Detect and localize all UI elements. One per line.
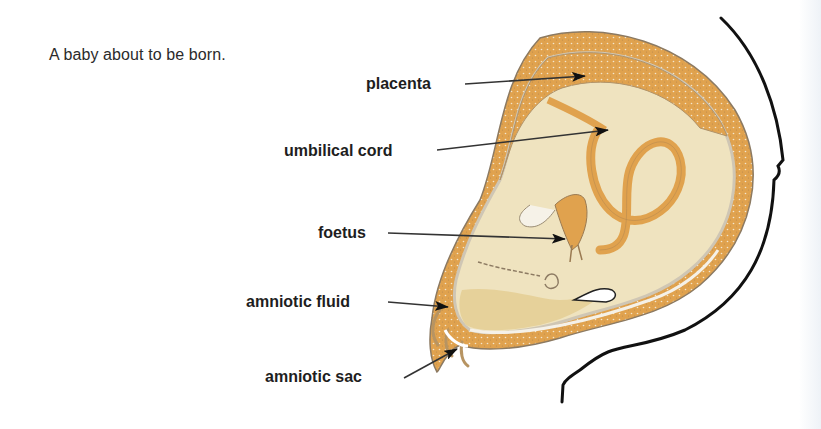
label-foetus: foetus xyxy=(318,224,366,242)
label-umbilical-cord: umbilical cord xyxy=(284,142,392,160)
label-amniotic-fluid: amniotic fluid xyxy=(246,293,350,311)
label-amniotic-sac: amniotic sac xyxy=(265,368,362,386)
pregnancy-diagram xyxy=(0,0,821,429)
label-placenta: placenta xyxy=(366,75,431,93)
